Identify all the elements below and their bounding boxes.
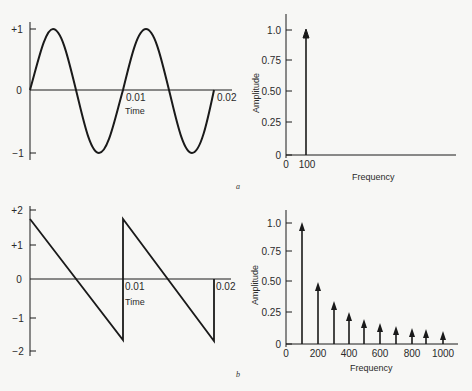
- sawtooth-wave: [30, 219, 214, 341]
- saw-x-tick-001: 0.01: [125, 281, 145, 292]
- spec-a-x-0: 0: [283, 159, 289, 170]
- spec-b-y-025: 0.25: [262, 307, 282, 318]
- sine-x-label: Time: [125, 106, 145, 116]
- sine-y-tick-minus1: −1: [12, 148, 24, 159]
- spec-a-y-050: 0.50: [262, 86, 282, 97]
- sine-y-tick-plus1: +1: [11, 24, 23, 35]
- saw-y-tick-0: 0: [16, 274, 22, 285]
- spec-b-x-1000: 1000: [432, 348, 455, 359]
- spectrum-a-chart: [286, 14, 456, 158]
- saw-x-tick-002: 0.02: [216, 281, 236, 292]
- saw-y-tick-plus2: +2: [11, 205, 23, 216]
- spec-b-x-800: 800: [404, 348, 421, 359]
- spec-b-x-400: 400: [341, 348, 358, 359]
- saw-x-label: Time: [125, 297, 145, 307]
- figure: +1 0 −1 0.01 0.02 Time 1.0 0.75 0.50 0.2…: [0, 0, 472, 391]
- panel-label-a: a: [236, 182, 240, 191]
- spec-b-x-0: 0: [283, 348, 289, 359]
- spec-b-y-1: 1.0: [267, 218, 281, 229]
- spec-a-x-100: 100: [299, 159, 316, 170]
- sine-chart: [30, 22, 232, 160]
- harmonic-arrowheads: [299, 222, 446, 340]
- spec-b-x-200: 200: [310, 348, 327, 359]
- spec-a-y-1: 1.0: [267, 25, 281, 36]
- harmonic-lines: [302, 227, 443, 344]
- saw-y-tick-minus1: −1: [12, 313, 24, 324]
- spec-a-y-075: 0.75: [262, 55, 282, 66]
- spec-a-x-label: Frequency: [352, 172, 395, 182]
- panel-label-b: b: [236, 370, 240, 379]
- spec-a-y-0: 0: [275, 150, 281, 161]
- spec-b-x-label: Frequency: [350, 363, 393, 373]
- spec-b-y-050: 0.50: [262, 276, 282, 287]
- sine-x-tick-001: 0.01: [126, 92, 146, 103]
- spec-b-y-075: 0.75: [262, 246, 282, 257]
- sine-x-tick-002: 0.02: [217, 92, 237, 103]
- spec-b-y-0: 0: [275, 339, 281, 350]
- saw-y-tick-minus2: −2: [12, 346, 24, 357]
- spectrum-b-chart: [286, 210, 458, 347]
- sine-curve: [30, 29, 214, 153]
- spec-a-y-025: 0.25: [262, 117, 282, 128]
- spec-a-y-label: Amplitude: [251, 73, 261, 113]
- spec-b-y-label: Amplitude: [250, 265, 260, 305]
- saw-y-tick-plus1: +1: [11, 240, 23, 251]
- sine-y-tick-0: 0: [16, 85, 22, 96]
- spec-b-x-600: 600: [372, 348, 389, 359]
